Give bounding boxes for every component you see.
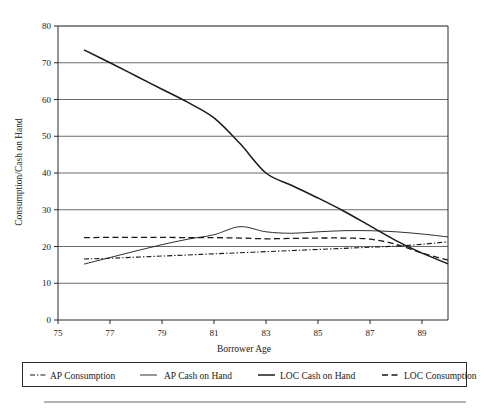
y-tick-label-30: 30 <box>42 205 52 215</box>
y-tick-label-40: 40 <box>42 168 52 178</box>
line-chart: 7577798183858789 01020304050607080 Borro… <box>0 0 489 413</box>
gridlines <box>58 26 448 283</box>
series-ap-cash-on-hand <box>84 227 448 265</box>
legend-label-ap-cash-on-hand: AP Cash on Hand <box>164 371 232 381</box>
y-tick-label-20: 20 <box>42 242 52 252</box>
x-tick-label-81: 81 <box>210 328 219 338</box>
x-tick-label-79: 79 <box>158 328 168 338</box>
legend-label-loc-cash-on-hand: LOC Cash on Hand <box>280 371 355 381</box>
x-axis-ticks: 7577798183858789 <box>54 320 428 338</box>
x-tick-label-89: 89 <box>418 328 428 338</box>
y-tick-label-80: 80 <box>42 21 52 31</box>
legend-label-loc-consumption: LOC Consumption <box>404 371 477 381</box>
x-axis-title: Borrower Age <box>217 344 271 354</box>
legend-label-ap-consumption: AP Consumption <box>50 371 116 381</box>
y-tick-label-50: 50 <box>42 131 52 141</box>
data-series <box>84 50 448 264</box>
x-tick-label-77: 77 <box>106 328 116 338</box>
y-tick-label-10: 10 <box>42 278 52 288</box>
x-tick-label-75: 75 <box>54 328 64 338</box>
x-tick-label-87: 87 <box>366 328 376 338</box>
y-axis-ticks: 01020304050607080 <box>42 21 58 325</box>
x-tick-label-85: 85 <box>314 328 324 338</box>
y-tick-label-70: 70 <box>42 58 52 68</box>
y-axis-title: Consumption/Cash on Hand <box>14 118 24 226</box>
y-tick-label-60: 60 <box>42 95 52 105</box>
chart-legend: AP ConsumptionAP Cash on HandLOC Cash on… <box>23 363 477 387</box>
x-tick-label-83: 83 <box>262 328 272 338</box>
chart-figure: 7577798183858789 01020304050607080 Borro… <box>0 0 489 413</box>
y-tick-label-0: 0 <box>47 315 52 325</box>
